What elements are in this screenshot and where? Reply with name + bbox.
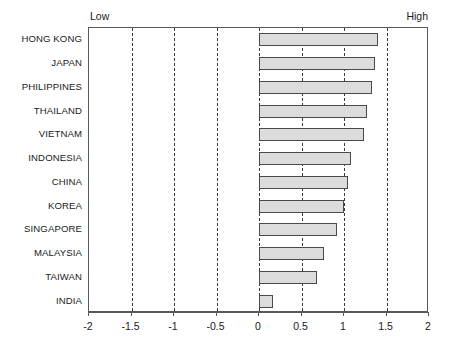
- gridline-x-1: [344, 28, 345, 311]
- axis-anchor-label-high: High: [328, 10, 428, 22]
- bar: [259, 152, 351, 165]
- category-label: CHINA: [0, 176, 82, 187]
- gridline-x-1.5: [387, 28, 388, 311]
- x-tick: [88, 312, 89, 316]
- category-label: VIETNAM: [0, 128, 82, 139]
- bar: [259, 223, 337, 236]
- x-tick-label: -0.5: [196, 320, 236, 332]
- gridline-x--1.5: [132, 28, 133, 311]
- axis-anchor-label-low: Low: [90, 10, 109, 22]
- bar: [259, 105, 367, 118]
- x-tick: [258, 312, 259, 316]
- category-label: JAPAN: [0, 57, 82, 68]
- category-label: TAIWAN: [0, 271, 82, 282]
- category-axis: HONG KONGJAPANPHILIPPINESTHAILANDVIETNAM…: [0, 27, 82, 312]
- x-tick-label: -1: [153, 320, 193, 332]
- category-label: HONG KONG: [0, 33, 82, 44]
- gridline-x-0: [259, 28, 260, 311]
- x-tick: [216, 312, 217, 316]
- x-tick-label: 2: [408, 320, 448, 332]
- bar: [259, 176, 348, 189]
- gridline-x--0.5: [217, 28, 218, 311]
- bar: [259, 200, 344, 213]
- bar: [259, 57, 375, 70]
- bar: [259, 33, 378, 46]
- category-label: THAILAND: [0, 105, 82, 116]
- x-tick-label: 1.5: [366, 320, 406, 332]
- bar: [259, 81, 372, 94]
- x-tick: [386, 312, 387, 316]
- category-label: KOREA: [0, 200, 82, 211]
- plot-area: [88, 27, 428, 312]
- x-tick: [301, 312, 302, 316]
- x-tick-label: -2: [68, 320, 108, 332]
- bar: [259, 247, 324, 260]
- bar: [259, 128, 364, 141]
- bar-chart: Low High HONG KONGJAPANPHILIPPINESTHAILA…: [0, 0, 454, 352]
- category-label: PHILIPPINES: [0, 81, 82, 92]
- x-tick: [131, 312, 132, 316]
- x-tick: [343, 312, 344, 316]
- x-tick: [173, 312, 174, 316]
- x-tick-label: 0: [238, 320, 278, 332]
- x-tick-label: 1: [323, 320, 363, 332]
- category-label: INDIA: [0, 295, 82, 306]
- x-tick-label: -1.5: [111, 320, 151, 332]
- category-label: SINGAPORE: [0, 223, 82, 234]
- gridline-x-0.5: [302, 28, 303, 311]
- x-axis: -2-1.5-1-0.500.511.52: [88, 312, 428, 352]
- x-tick: [428, 312, 429, 316]
- bar: [259, 295, 273, 308]
- category-label: INDONESIA: [0, 152, 82, 163]
- category-label: MALAYSIA: [0, 247, 82, 258]
- x-tick-label: 0.5: [281, 320, 321, 332]
- bar: [259, 271, 317, 284]
- gridline-x--1: [174, 28, 175, 311]
